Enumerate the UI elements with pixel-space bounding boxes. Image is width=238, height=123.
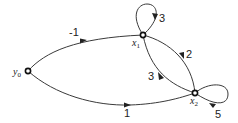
arrow-x1-x2	[179, 52, 184, 59]
node-x1	[140, 32, 145, 37]
edge-y0-x2	[28, 71, 195, 105]
edge-label-y0-x1: -1	[69, 26, 79, 38]
edge-label-x1-self-loop: 3	[159, 12, 165, 24]
arrow-y0-x1	[80, 39, 87, 44]
edge-x2-self-loop	[195, 85, 228, 103]
node-y0	[25, 68, 30, 73]
node-label-x1: x1	[131, 37, 140, 50]
edge-label-y0-x2: 1	[124, 107, 130, 119]
node-label-x2: x2	[189, 95, 198, 108]
arrow-x1-self-loop	[152, 13, 158, 20]
edge-label-x2-x1: 3	[148, 70, 154, 82]
edge-label-x1-x2: 2	[186, 48, 192, 60]
edge-x1-x2	[143, 35, 195, 93]
edge-x2-x1	[143, 35, 195, 93]
node-label-y0: y0	[12, 66, 21, 79]
edge-label-x2-self-loop: 5	[215, 108, 221, 120]
edge-x1-self-loop	[136, 4, 156, 35]
signal-flow-graph: -1 1 3 2 3 5 y0 x1 x2	[0, 0, 238, 123]
